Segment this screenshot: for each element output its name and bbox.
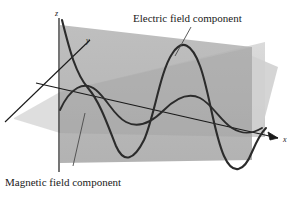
horizontal-plane-left-wing — [14, 92, 60, 133]
x-axis-arrowhead — [268, 132, 278, 140]
y-axis-label: y — [85, 36, 90, 45]
z-axis-label: z — [54, 9, 59, 18]
em-wave-diagram: Electric field component Magnetic field … — [0, 0, 295, 204]
magnetic-field-label: Magnetic field component — [5, 176, 121, 188]
em-wave-figure: Electric field component Magnetic field … — [0, 0, 295, 204]
electric-field-label: Electric field component — [133, 12, 242, 24]
x-axis-label: x — [282, 135, 287, 144]
